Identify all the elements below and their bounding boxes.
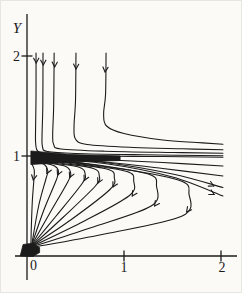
flow-arrow-barb-1	[55, 62, 58, 67]
y-axis-label: Y	[13, 20, 23, 36]
trajectory-upper-traj-3	[53, 53, 223, 153]
trajectory-upper-traj-2	[42, 53, 223, 156]
phase-portrait-figure: Y21120	[1, 1, 241, 292]
scanned-plot-page: Y21120	[0, 0, 242, 293]
trajectory-lower-traj-6	[32, 159, 115, 246]
y-tick-label-2: 2	[13, 49, 20, 64]
trajectory-upper-traj-5	[104, 53, 223, 144]
phase-portrait-svg: Y21120	[1, 1, 242, 293]
x-tick-label-1: 1	[121, 260, 128, 275]
origin-label: 0	[30, 258, 37, 273]
flow-arrow-barb-0	[103, 67, 105, 72]
flow-arrow-barb-0	[32, 175, 34, 180]
flow-arrow-barb-1	[43, 60, 46, 65]
trajectory-lower-traj-2	[32, 161, 59, 245]
trajectory-upper-traj-1	[35, 53, 222, 157]
trajectory-upper-traj-4	[74, 53, 223, 150]
y-tick-label-1: 1	[13, 149, 20, 164]
trajectory-lower-traj-3	[32, 161, 71, 246]
x-tick-label-2: 2	[219, 260, 226, 275]
flow-arrow-barb-1	[36, 58, 39, 63]
